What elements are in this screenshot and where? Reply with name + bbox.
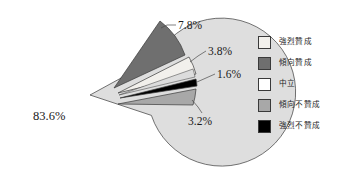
legend-label-strong-agree: 強烈贊成 [279,38,312,46]
legend-item-strong-agree[interactable]: 強烈贊成 [258,34,342,50]
legend-swatch-tend-disagree [258,99,271,112]
legend-item-tend-disagree[interactable]: 傾向不贊成 [258,97,342,113]
data-label-neutral: 83.6% [33,109,65,123]
data-label-tend-agree: 7.8% [178,19,202,31]
legend-label-tend-agree: 傾向贊成 [279,59,312,67]
legend-swatch-tend-agree [258,57,271,70]
legend-label-strong-disagree: 強烈不贊成 [279,122,320,130]
legend-label-neutral: 中立 [279,80,295,88]
legend-swatch-strong-disagree [258,120,271,133]
legend-item-neutral[interactable]: 中立 [258,76,342,92]
data-label-tend-disagree: 3.2% [188,115,212,127]
pie-chart-figure: 7.8% 3.8% 1.6% 3.2% 83.6% 強烈贊成 傾向贊成 中立 傾… [0,0,344,179]
legend-item-strong-disagree[interactable]: 強烈不贊成 [258,118,342,134]
legend-item-tend-agree[interactable]: 傾向贊成 [258,55,342,71]
data-label-strong-disagree: 1.6% [217,68,241,80]
chart-legend: 強烈贊成 傾向贊成 中立 傾向不贊成 強烈不贊成 [258,34,342,134]
legend-swatch-neutral [258,78,271,91]
data-label-strong-agree: 3.8% [208,45,232,57]
legend-label-tend-disagree: 傾向不贊成 [279,101,320,109]
legend-swatch-strong-agree [258,36,271,49]
